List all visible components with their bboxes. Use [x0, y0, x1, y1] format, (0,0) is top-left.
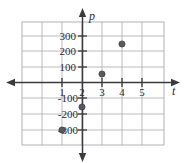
y-tick-label-300: 300	[60, 30, 77, 42]
x-axis-label-t: t	[172, 84, 176, 98]
scatter-plot-figure: 300 200 100 -100 -200 -300 1 2 3 4 5 p t	[0, 0, 186, 163]
y-tick-label-neg200: -200	[58, 108, 79, 120]
y-axis-down-arrow	[79, 153, 86, 162]
data-point	[99, 71, 105, 77]
y-tick-label-100: 100	[60, 61, 77, 73]
x-axis-left-arrow	[6, 79, 15, 86]
data-point	[59, 127, 65, 133]
x-tick-label-5: 5	[139, 86, 145, 98]
y-axis-label-p: p	[88, 9, 95, 23]
plot-background	[22, 22, 164, 145]
data-point	[119, 41, 125, 47]
x-tick-label-1: 1	[59, 86, 65, 98]
y-tick-label-200: 200	[60, 45, 77, 57]
x-tick-label-2: 2	[79, 86, 85, 98]
data-point	[79, 104, 85, 110]
x-tick-label-3: 3	[99, 86, 105, 98]
y-axis-up-arrow	[79, 8, 86, 17]
coordinate-plane: 300 200 100 -100 -200 -300 1 2 3 4 5 p t	[0, 0, 186, 163]
x-tick-label-4: 4	[119, 86, 125, 98]
